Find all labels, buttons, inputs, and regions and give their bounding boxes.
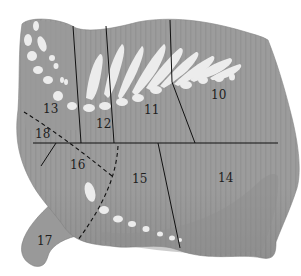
region-label-15: 15 <box>132 173 147 185</box>
region-label-16: 16 <box>70 159 85 171</box>
region-label-13: 13 <box>43 103 58 115</box>
region-label-11: 11 <box>144 104 159 116</box>
region-label-18: 18 <box>35 128 50 140</box>
region-label-17: 17 <box>37 235 52 247</box>
region-label-12: 12 <box>96 118 111 130</box>
region-label-14: 14 <box>218 172 233 184</box>
meat-cut-diagram: 10 11 12 13 14 15 16 17 18 <box>0 0 301 276</box>
region-label-10: 10 <box>211 89 226 101</box>
